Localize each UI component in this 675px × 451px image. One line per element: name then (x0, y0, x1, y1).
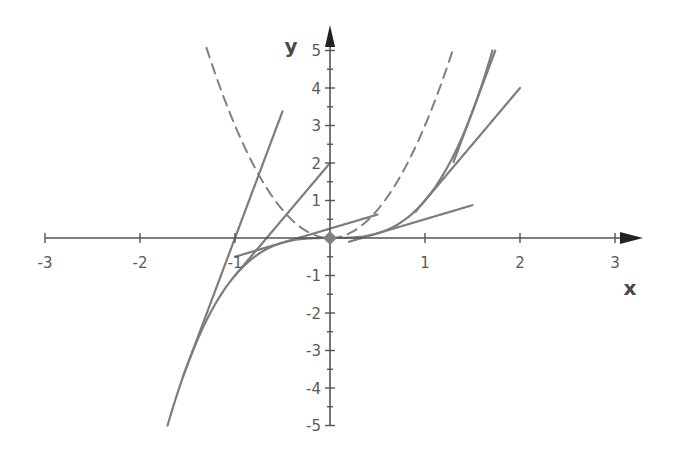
series-2-curve (183, 111, 283, 377)
series-4-curve (235, 215, 378, 257)
x-axis-label: x (624, 276, 637, 300)
series-6-curve (416, 88, 521, 212)
x-axis-arrow-icon (620, 232, 643, 244)
y-tick-label: -2 (306, 305, 321, 323)
y-tick-label: -5 (306, 417, 321, 435)
series-5-curve (349, 205, 473, 242)
x-tick-label: -3 (38, 254, 53, 272)
y-tick-label: -4 (306, 380, 321, 398)
y-axis-label: y (284, 34, 297, 58)
x-tick-label: 3 (610, 254, 620, 272)
y-tick-label: 4 (311, 80, 321, 98)
x-tick-label: 2 (515, 254, 525, 272)
y-tick-label: 2 (311, 155, 321, 173)
plot-series (168, 48, 520, 426)
series-7-curve (454, 51, 496, 162)
axes: -3-2-1123 54321-1-2-3-4-5 x y (38, 25, 643, 435)
diamond-marker-icon (323, 231, 337, 245)
y-tick-label: 1 (311, 192, 321, 210)
y-tick-label: -3 (306, 342, 321, 360)
chart-canvas: -3-2-1123 54321-1-2-3-4-5 x y (0, 0, 675, 451)
y-tick-label: 5 (311, 42, 321, 60)
x-tick-label: -2 (133, 254, 148, 272)
y-tick-label: 3 (311, 117, 321, 135)
plot-points (323, 231, 337, 245)
series-3-curve (235, 163, 330, 276)
x-tick-label: -1 (228, 254, 243, 272)
y-axis-arrow-icon (325, 25, 335, 47)
x-tick-label: 1 (420, 254, 430, 272)
y-tick-label: -1 (306, 267, 321, 285)
